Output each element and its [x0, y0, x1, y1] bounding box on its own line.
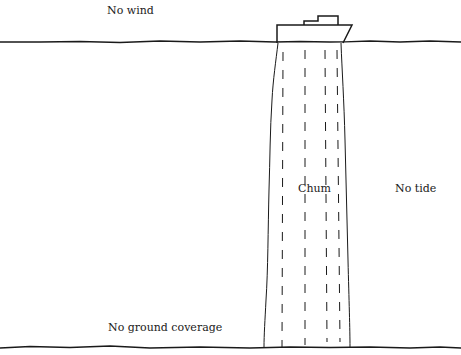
no-tide-label: No tide: [395, 183, 436, 194]
chum-diagram: No wind Chum No tide No ground coverage: [0, 0, 461, 355]
seabed-line: [0, 346, 461, 348]
no-ground-coverage-label: No ground coverage: [108, 322, 222, 333]
diagram-drawing: [0, 0, 461, 355]
water-surface-line: [0, 41, 461, 43]
chum-label: Chum: [298, 183, 331, 194]
boat-icon: [277, 16, 352, 43]
no-wind-label: No wind: [107, 5, 154, 16]
chum-dash-lines: [282, 50, 340, 347]
